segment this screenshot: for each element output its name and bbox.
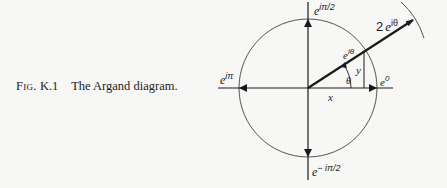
argand-diagram: eiπ/2 e− iπ/2 eiπ e0 eiθ 2eiθ x y θ	[0, 0, 447, 188]
label-top: eiπ/2	[314, 2, 335, 18]
label-bottom: e− iπ/2	[312, 163, 341, 179]
arrow-right-icon	[369, 84, 377, 92]
label-left: eiπ	[220, 71, 234, 87]
arrow-down-icon	[304, 149, 312, 157]
label-theta: θ	[346, 75, 351, 86]
label-x: x	[327, 91, 333, 103]
arrow-up-icon	[304, 19, 312, 27]
radial-vector	[308, 20, 413, 88]
label-y: y	[355, 64, 361, 76]
label-right: e0	[380, 74, 390, 88]
arrow-left-icon	[239, 84, 247, 92]
